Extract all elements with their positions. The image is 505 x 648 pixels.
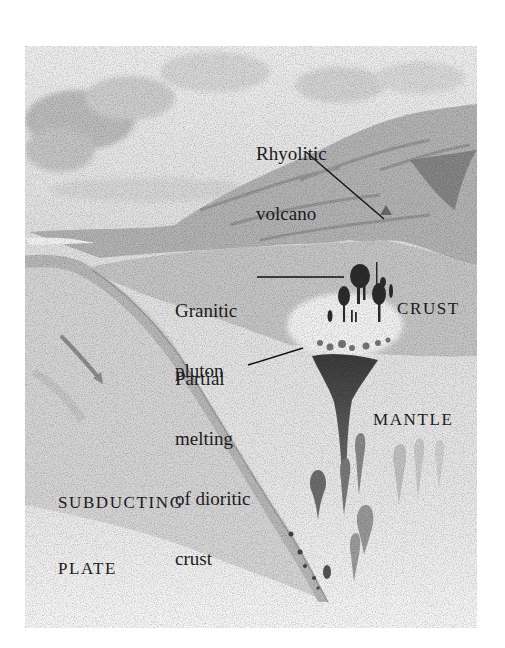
label-partial-melting: Partial melting of dioritic crust xyxy=(175,329,250,609)
label-rhyolitic-volcano: Rhyolitic volcano xyxy=(256,104,327,264)
label-subducting-plate: SUBDUCTING PLATE xyxy=(58,448,184,624)
label-crust: CRUST xyxy=(397,298,460,320)
subduction-diagram: Rhyolitic volcano Granitic pluton CRUST … xyxy=(0,0,505,648)
label-mantle: MANTLE xyxy=(373,409,453,431)
